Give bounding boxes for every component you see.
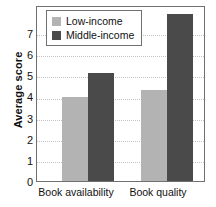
legend-item-low-income: Low-income bbox=[52, 14, 134, 28]
y-tick-label-4: 4 bbox=[19, 92, 33, 103]
legend-item-middle-income: Middle-income bbox=[52, 28, 134, 42]
x-category-label-book-quality: Book quality bbox=[112, 186, 204, 198]
bar-middle-income-book-availability bbox=[88, 73, 114, 181]
legend-label-low-income: Low-income bbox=[66, 16, 123, 27]
legend-label-middle-income: Middle-income bbox=[66, 30, 134, 41]
bar-middle-income-book-quality bbox=[167, 14, 193, 181]
bar-low-income-book-quality bbox=[141, 90, 167, 181]
legend-swatch-icon-middle-income bbox=[52, 31, 61, 40]
y-tick-label-1: 1 bbox=[19, 156, 33, 167]
legend-swatch-icon-low-income bbox=[52, 17, 61, 26]
y-tick-label-7: 7 bbox=[19, 29, 33, 40]
y-tick-label-5: 5 bbox=[19, 71, 33, 82]
x-category-label-book-availability: Book availability bbox=[27, 186, 125, 198]
legend: Low-income Middle-income bbox=[46, 10, 142, 46]
y-tick-label-6: 6 bbox=[19, 50, 33, 61]
y-tick-label-2: 2 bbox=[19, 135, 33, 146]
bar-low-income-book-availability bbox=[62, 97, 88, 181]
y-tick-label-3: 3 bbox=[19, 114, 33, 125]
bar-chart: Average score 0 1 2 3 4 5 6 7 Book avail… bbox=[0, 0, 216, 207]
